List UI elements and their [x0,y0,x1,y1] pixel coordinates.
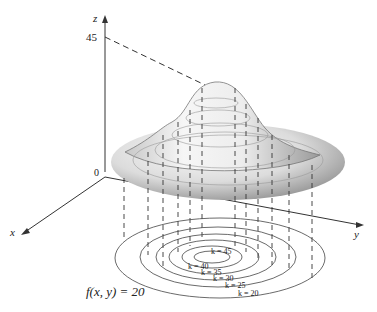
surface-level-curves-diagram: z 45 0 x y k = 45 k = 40 k = 35 k = 30 k… [0,0,377,312]
z45-dashed-line [105,37,205,85]
level-curve-k20 [115,218,325,298]
y-axis-label: y [353,228,359,240]
origin-label: 0 [94,167,99,178]
z-axis-label: z [92,12,98,24]
z-tick-45: 45 [86,31,98,43]
level-curves [115,218,325,298]
z-axis-arrow-icon [102,15,108,23]
level-label-k20: k = 20 [238,289,259,298]
level-label-k45: k = 45 [211,247,232,256]
x-axis-label: x [9,226,15,238]
x-axis [25,177,105,232]
equation-label: f(x, y) = 20 [86,284,145,299]
surface-dome [125,82,320,171]
